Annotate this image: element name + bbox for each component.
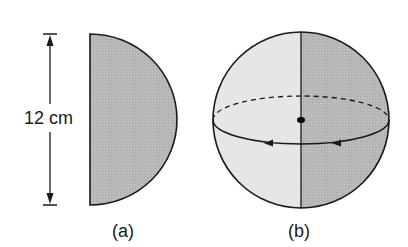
figure-b-caption: (b) <box>288 221 310 241</box>
semicircle-shape <box>90 34 177 205</box>
figure-a-caption: (a) <box>112 221 134 241</box>
sphere-left-half <box>212 31 301 209</box>
arrow-up-icon <box>47 35 54 46</box>
center-dot <box>297 117 305 123</box>
sphere <box>212 31 390 209</box>
arrow-down-icon <box>47 193 54 204</box>
sphere-right-half <box>301 31 390 209</box>
dimension-label: 12 cm <box>22 108 75 128</box>
